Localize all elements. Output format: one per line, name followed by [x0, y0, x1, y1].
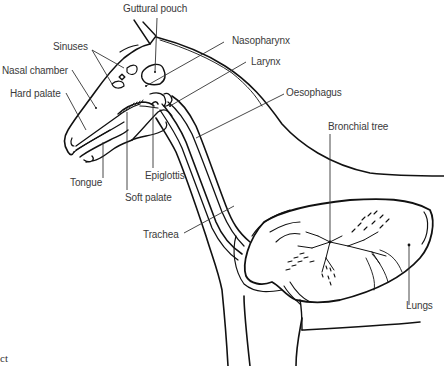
soft-palate-line — [140, 106, 158, 108]
oesophagus-tube-outer — [172, 96, 250, 242]
label-nasopharynx: Nasopharynx — [232, 35, 290, 47]
jaw-curve — [132, 122, 167, 140]
foreleg-back — [296, 318, 302, 366]
label-nasal-chamber: Nasal chamber — [2, 65, 68, 77]
label-oesophagus: Oesophagus — [286, 87, 342, 99]
ear-outline — [134, 20, 156, 44]
nasal-passage-upper — [76, 104, 140, 146]
chin-outline — [84, 140, 132, 162]
label-trachea: Trachea — [143, 229, 179, 241]
label-epiglottis: Epiglottis — [145, 170, 185, 182]
sinus-lower — [112, 81, 124, 88]
label-bronchial-tree: Bronchial tree — [328, 121, 388, 133]
lung-lower-folds — [284, 282, 310, 304]
label-tongue: Tongue — [70, 177, 102, 189]
neck-front-outline — [156, 118, 228, 366]
sinus-upper — [127, 65, 137, 74]
leader-sinuses — [92, 50, 124, 84]
foreleg-front — [244, 296, 250, 366]
belly-line — [302, 322, 420, 330]
label-larynx: Larynx — [251, 56, 280, 68]
bronchial-tree — [270, 211, 402, 290]
label-hard-palate: Hard palate — [10, 88, 61, 100]
leader-trachea — [184, 206, 234, 233]
leader-larynx — [170, 62, 246, 106]
epiglottis-shape — [152, 102, 158, 104]
sinus-dot — [119, 74, 125, 80]
chest-outer-edge — [234, 210, 290, 292]
neck-top-outline — [156, 37, 444, 176]
lungs-outline — [245, 199, 433, 302]
leader-hard-palate — [66, 93, 86, 130]
label-soft-palate: Soft palate — [125, 192, 172, 204]
mane-line — [160, 40, 262, 106]
cropped-caption-text: ct — [0, 352, 8, 364]
nostril-outline — [71, 138, 74, 146]
leader-oesophagus — [196, 94, 284, 138]
lungs-inner-edge — [422, 212, 428, 244]
label-sinuses: Sinuses — [53, 41, 88, 53]
horse-respiratory-diagram — [0, 0, 444, 366]
leader-nasal-chamber — [72, 70, 96, 108]
label-lungs: Lungs — [406, 300, 433, 312]
label-guttural-pouch: Guttural pouch — [123, 3, 187, 15]
